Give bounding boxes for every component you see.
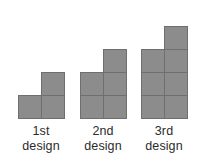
design-2-spacer [80, 49, 104, 73]
design-3-square [164, 49, 188, 73]
design-1-word: design [22, 139, 59, 154]
design-1-row-top [18, 72, 64, 95]
design-2-square [103, 49, 127, 73]
design-3-square [141, 95, 165, 119]
design-2-row-bottom [80, 95, 126, 118]
design-3-group: 3rd design [132, 26, 196, 154]
design-1-square [18, 95, 42, 119]
design-3-square [141, 72, 165, 96]
design-1-row-bottom [18, 95, 64, 118]
design-2-word: design [84, 139, 121, 154]
design-2-ordinal: 2nd [84, 124, 121, 139]
design-3-square [164, 95, 188, 119]
design-1-squares [18, 72, 64, 118]
design-3-squares [141, 26, 187, 118]
design-1-label: 1st design [22, 124, 59, 154]
design-2-row-top [80, 49, 126, 72]
design-3-square [164, 72, 188, 96]
design-2-squares [80, 49, 126, 118]
design-3-row-upper [141, 49, 187, 72]
design-3-ordinal: 3rd [145, 124, 182, 139]
design-2-label: 2nd design [84, 124, 121, 154]
design-3-square [164, 26, 188, 50]
design-3-row-top [141, 26, 187, 49]
design-3-word: design [145, 139, 182, 154]
design-2-square [80, 95, 104, 119]
design-2-square [103, 95, 127, 119]
design-3-square [141, 49, 165, 73]
design-1-group: 1st design [10, 72, 72, 154]
design-2-square [103, 72, 127, 96]
design-1-square [41, 72, 65, 96]
design-1-spacer [18, 72, 42, 96]
design-3-spacer [141, 26, 165, 50]
design-2-row-middle [80, 72, 126, 95]
design-1-ordinal: 1st [22, 124, 59, 139]
design-2-square [80, 72, 104, 96]
design-1-square [41, 95, 65, 119]
design-3-row-bottom [141, 95, 187, 118]
design-3-label: 3rd design [145, 124, 182, 154]
squares-pattern-figure: 1st design 2nd design [0, 0, 200, 154]
design-3-row-middle [141, 72, 187, 95]
design-2-group: 2nd design [72, 49, 134, 154]
